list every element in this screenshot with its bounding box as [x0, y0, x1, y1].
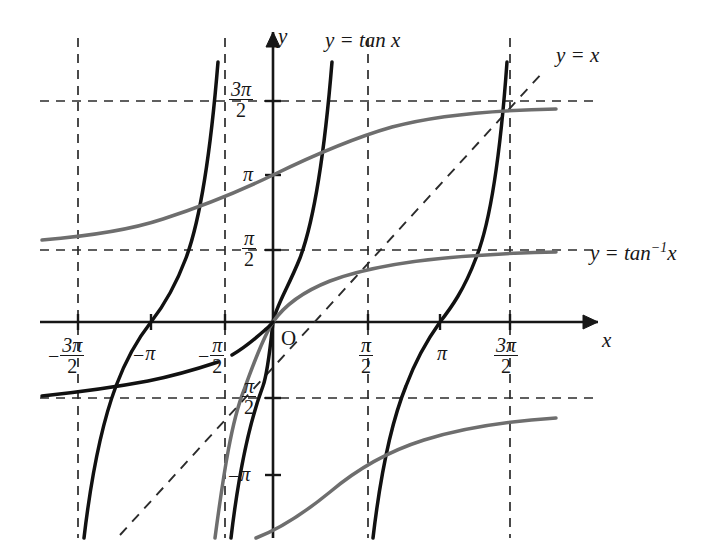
label-y-equals-arctan-x: y = tan−1x — [590, 241, 676, 264]
x-tick-negative-pi-over-2-denominator: 2 — [210, 355, 224, 376]
y-tick-pi: π — [243, 164, 253, 184]
x-axis-arrowhead — [583, 315, 598, 329]
y-tick-pi-over-2: π 2 — [242, 228, 256, 270]
arctan-label-suffix: x — [667, 241, 676, 265]
y-tick-negative-pi: −π — [228, 464, 250, 486]
x-tick-pi-over-2-numerator: π — [359, 335, 373, 355]
y-axis-label: y — [278, 26, 287, 47]
y-tick-negative-pi-over-2: π 2 — [242, 376, 256, 418]
x-tick-negative-pi-over-2: − π 2 — [198, 335, 224, 377]
y-tick-negative-pi-value: π — [240, 463, 250, 485]
label-y-equals-tan-x: y = tan x — [325, 30, 400, 51]
identity-line-y-equals-x — [120, 72, 543, 535]
arctan-label-exponent: −1 — [651, 240, 667, 255]
x-tick-3pi-over-2: 3π 2 — [494, 335, 518, 377]
x-axis-label: x — [602, 330, 611, 351]
x-tick-negative-pi: −π — [133, 343, 155, 365]
x-tick-negative-3pi-over-2-sign: − — [48, 346, 60, 366]
arctan-label-prefix: y = tan — [590, 241, 651, 265]
x-tick-negative-pi-over-2-numerator: π — [210, 335, 224, 355]
x-tick-negative-pi-over-2-sign: − — [198, 346, 210, 366]
y-tick-3pi-over-2-numerator: 3π — [229, 79, 253, 99]
x-tick-3pi-over-2-numerator: 3π — [494, 335, 518, 355]
label-y-equals-x: y = x — [556, 45, 599, 66]
y-tick-3pi-over-2: 3π 2 — [229, 79, 253, 121]
tan-branch-left — [84, 62, 218, 538]
x-tick-negative-pi-sign: − — [133, 345, 145, 365]
arctan-branch-principal — [215, 252, 556, 538]
plot-canvas — [0, 0, 715, 547]
y-tick-pi-over-2-numerator: π — [242, 228, 256, 248]
x-tick-pi-over-2-denominator: 2 — [359, 355, 373, 376]
tangent-arctangent-figure: y x O y = tan x y = x y = tan−1x 3π 2 π … — [0, 0, 715, 547]
x-tick-negative-3pi-over-2: − 3π 2 — [48, 335, 84, 377]
x-tick-pi: π — [437, 343, 447, 363]
x-tick-negative-pi-value: π — [145, 342, 155, 364]
y-tick-negative-pi-sign: − — [228, 466, 240, 486]
grid-lines — [40, 38, 598, 538]
x-tick-negative-3pi-over-2-denominator: 2 — [60, 355, 84, 376]
x-tick-negative-3pi-over-2-numerator: 3π — [60, 335, 84, 355]
arctan-branch-lower — [256, 418, 556, 538]
arctan-dark-upper-left — [232, 322, 273, 355]
y-tick-pi-over-2-denominator: 2 — [242, 248, 256, 269]
y-tick-negative-pi-over-2-denominator: 2 — [242, 396, 256, 417]
x-tick-3pi-over-2-denominator: 2 — [494, 355, 518, 376]
x-tick-pi-over-2: π 2 — [359, 335, 373, 377]
curve-arctan-x — [42, 109, 556, 538]
y-tick-3pi-over-2-denominator: 2 — [229, 99, 253, 120]
arctan-branch-upper — [42, 109, 556, 240]
origin-label: O — [281, 328, 296, 349]
y-tick-negative-pi-over-2-numerator: π — [242, 376, 256, 396]
